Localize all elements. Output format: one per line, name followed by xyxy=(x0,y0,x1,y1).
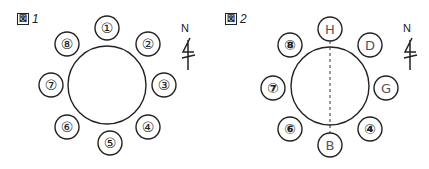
svg-text:⑥: ⑥ xyxy=(61,119,74,135)
seat: H xyxy=(318,17,342,41)
seat: ⑧ xyxy=(55,32,79,56)
svg-text:②: ② xyxy=(142,36,155,52)
svg-text:④: ④ xyxy=(364,121,376,137)
seating-diagram-2: HDG④B⑥⑦⑧ xyxy=(215,0,429,169)
seat: ⑦ xyxy=(261,76,285,100)
seat: ⑥ xyxy=(55,115,79,139)
seat: ④ xyxy=(136,115,160,139)
svg-text:D: D xyxy=(365,38,375,53)
seat: ⑦ xyxy=(39,73,63,97)
seat: B xyxy=(318,133,342,157)
svg-text:⑧: ⑧ xyxy=(284,37,296,53)
north-label: N xyxy=(181,22,189,34)
svg-text:⑦: ⑦ xyxy=(45,77,58,93)
seat: ⑤ xyxy=(98,131,122,155)
svg-text:B: B xyxy=(326,138,335,153)
figure-1: 図 1 ①②③④⑤⑥⑦⑧ N xyxy=(0,0,214,169)
seat: ⑧ xyxy=(278,33,302,57)
svg-text:H: H xyxy=(325,22,335,37)
svg-text:⑥: ⑥ xyxy=(284,121,296,137)
svg-text:⑦: ⑦ xyxy=(267,80,279,96)
seat: ③ xyxy=(152,73,176,97)
seat: ⑥ xyxy=(278,117,302,141)
svg-text:①: ① xyxy=(101,20,114,36)
round-table xyxy=(68,46,146,124)
seat: ④ xyxy=(358,117,382,141)
seat: ② xyxy=(136,32,160,56)
svg-text:⑤: ⑤ xyxy=(104,135,117,151)
svg-text:⑧: ⑧ xyxy=(61,36,74,52)
svg-text:④: ④ xyxy=(142,119,155,135)
figure-2: 図 2 HDG④B⑥⑦⑧ N xyxy=(215,0,429,169)
seat: ① xyxy=(95,16,119,40)
seat: G xyxy=(374,76,398,100)
svg-text:③: ③ xyxy=(158,77,171,93)
svg-text:G: G xyxy=(381,81,391,96)
seat: D xyxy=(358,33,382,57)
north-label: N xyxy=(403,22,411,34)
